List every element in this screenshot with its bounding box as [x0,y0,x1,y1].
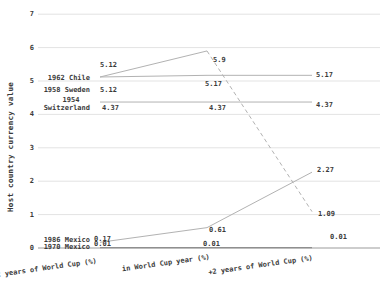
y-tick-label: 1 [30,211,34,219]
data-label: 5.12 [100,61,117,69]
data-label: 2.27 [317,166,334,174]
data-label: 0.01 [94,240,111,248]
y-tick-label: 2 [30,177,34,185]
y-tick-label: 3 [30,144,34,152]
data-label: 0.01 [330,233,347,241]
series-line-1958-sweden [100,75,207,77]
series-name-label: 1958 Sweden [44,86,90,94]
x-axis-label: +2 years of World Cup (%) [208,254,313,277]
data-label: 5.12 [100,86,117,94]
data-label: 0.61 [209,226,226,234]
data-label: 5.9 [213,56,226,64]
data-label: 4.37 [316,101,333,109]
chart-canvas: 01234567Host country currency value-2 ye… [0,0,385,295]
world-cup-currency-chart: 01234567Host country currency value-2 ye… [0,0,385,295]
data-label: 0.01 [203,240,220,248]
data-label: 4.37 [102,104,119,112]
data-label: 4.37 [209,104,226,112]
y-tick-label: 0 [30,244,34,252]
data-label: 5.17 [205,80,222,88]
y-tick-label: 6 [30,44,34,52]
y-tick-label: 4 [30,110,34,118]
series-name-label: Switzerland [44,104,90,112]
x-axis-label: in World Cup year (%) [122,253,211,273]
y-tick-label: 7 [30,10,34,18]
data-label: 1.09 [318,210,335,218]
series-line-1986-mexico [100,228,207,243]
y-tick-label: 5 [30,77,34,85]
data-label: 5.17 [316,71,333,79]
series-line-1986-mexico [207,172,312,227]
series-name-label: 1970 Mexico [44,243,90,251]
x-axis-label: -2 years of World Cup (%) [0,257,97,280]
series-name-label: 1962 Chile [48,74,90,82]
y-axis-title: Host country currency value [6,82,15,212]
